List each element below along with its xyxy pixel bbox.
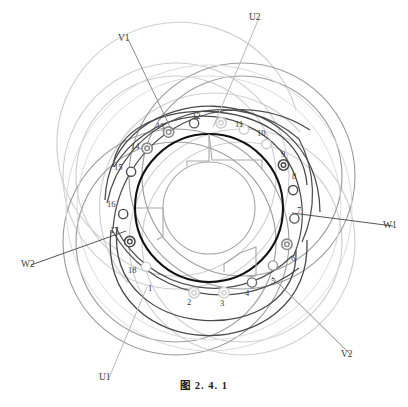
slot-marker[interactable] — [142, 143, 152, 153]
slot-number-10: 10 — [257, 129, 266, 138]
slot-number-1: 1 — [148, 284, 152, 293]
slot-marker[interactable] — [216, 118, 226, 128]
terminal-label-U2: U2 — [249, 13, 261, 23]
terminal-lead-W1 — [292, 213, 393, 226]
slot-number-13: 13 — [156, 122, 165, 131]
winding-diagram — [0, 0, 408, 407]
slot-marker-inner-ring — [128, 239, 133, 244]
internal-connection-steps — [136, 134, 262, 277]
figure-canvas: 123456789101112131415161718 U1U2V1V2W1W2… — [0, 0, 408, 407]
slot-marker[interactable] — [290, 214, 299, 223]
slot-marker[interactable] — [282, 239, 292, 249]
slot-number-9: 9 — [281, 150, 285, 159]
slot-marker-inner-ring — [145, 146, 150, 151]
slot-number-3: 3 — [220, 299, 224, 308]
slot-number-14: 14 — [131, 142, 140, 151]
figure-caption: 图 2. 4. 1 — [0, 377, 408, 392]
slot-number-16: 16 — [107, 200, 116, 209]
terminal-leader-lines — [31, 18, 393, 378]
slot-marker[interactable] — [163, 127, 173, 137]
terminal-label-V2: V2 — [341, 350, 353, 360]
slot-marker[interactable] — [125, 236, 135, 246]
terminal-label-W1: W1 — [383, 221, 397, 231]
slot-marker-inner-ring — [285, 242, 290, 247]
phase-u-end-turns — [57, 22, 355, 355]
slot-marker[interactable] — [262, 140, 271, 149]
slot-marker[interactable] — [119, 209, 128, 218]
slot-number-2: 2 — [187, 298, 191, 307]
slot-marker-inner-ring — [192, 290, 197, 295]
slot-number-17: 17 — [110, 226, 119, 235]
slot-number-6: 6 — [291, 254, 295, 263]
slot-marker-inner-ring — [222, 290, 227, 295]
slot-marker[interactable] — [219, 288, 229, 298]
slot-marker-inner-ring — [166, 130, 171, 135]
slot-number-8: 8 — [292, 172, 296, 181]
slot-number-12: 12 — [192, 112, 201, 121]
slot-number-4: 4 — [245, 289, 249, 298]
slot-number-15: 15 — [114, 163, 123, 172]
slot-number-18: 18 — [128, 266, 137, 275]
slot-marker-inner-ring — [219, 121, 224, 126]
slot-marker[interactable] — [268, 261, 277, 270]
slot-marker[interactable] — [142, 262, 151, 271]
slot-number-11: 11 — [235, 120, 243, 129]
slot-number-5: 5 — [271, 277, 275, 286]
slot-marker[interactable] — [127, 167, 136, 176]
terminal-label-V1: V1 — [118, 34, 130, 44]
slot-marker[interactable] — [278, 160, 288, 170]
slot-marker[interactable] — [289, 186, 298, 195]
terminal-label-W2: W2 — [21, 260, 35, 270]
terminal-lead-V2 — [272, 277, 351, 355]
slot-marker-inner-ring — [281, 163, 286, 168]
slot-marker[interactable] — [247, 278, 256, 287]
slot-number-7: 7 — [297, 206, 301, 215]
rotor-bore-outline — [163, 162, 255, 254]
